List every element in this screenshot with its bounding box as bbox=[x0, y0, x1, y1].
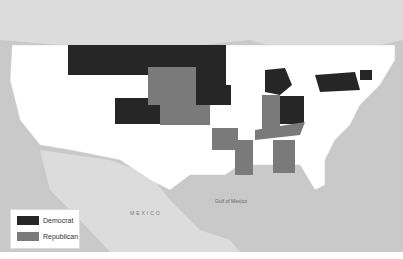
bottom-strip bbox=[0, 252, 403, 259]
iowa bbox=[196, 85, 231, 105]
kansas bbox=[160, 105, 210, 125]
legend-label: Republican bbox=[43, 233, 78, 240]
arkansas bbox=[212, 128, 238, 150]
montana bbox=[68, 45, 148, 75]
minnesota bbox=[196, 45, 226, 85]
republican-swatch bbox=[17, 232, 39, 241]
ohio bbox=[280, 96, 304, 124]
massachusetts bbox=[360, 70, 372, 80]
indiana bbox=[262, 95, 280, 130]
nebraska bbox=[148, 87, 196, 105]
mississippi bbox=[235, 140, 253, 175]
legend-item-democrat: Democrat bbox=[17, 216, 73, 225]
us-map: MEXICO Gulf of Mexico Democrat Republica… bbox=[0, 0, 403, 252]
democrat-swatch bbox=[17, 216, 39, 225]
legend: Democrat Republican bbox=[10, 209, 80, 249]
south-dakota bbox=[148, 67, 196, 87]
georgia bbox=[273, 140, 295, 173]
mexico-label: MEXICO bbox=[130, 210, 162, 216]
legend-label: Democrat bbox=[43, 217, 73, 224]
north-dakota bbox=[148, 45, 196, 67]
legend-item-republican: Republican bbox=[17, 232, 78, 241]
gulf-label: Gulf of Mexico bbox=[215, 198, 247, 204]
new-york bbox=[315, 72, 360, 92]
